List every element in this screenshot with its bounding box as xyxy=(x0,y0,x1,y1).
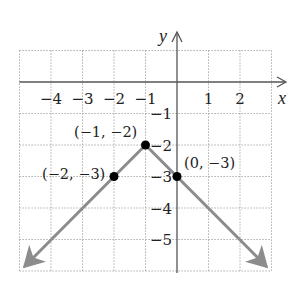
point-label-0-neg3: (0, −3) xyxy=(184,155,235,171)
x-tick-label: 2 xyxy=(235,90,245,108)
x-tick-label: −3 xyxy=(71,90,93,108)
point-label-vertex: (−1, −2) xyxy=(74,124,137,140)
x-tick-labels: −4 −3 −2 −1 1 2 xyxy=(40,90,245,108)
y-tick-labels: −1 −2 −3 −4 −5 xyxy=(150,105,172,249)
x-tick-label: −2 xyxy=(103,90,125,108)
x-tick-label: −4 xyxy=(40,90,62,108)
y-tick-label: −4 xyxy=(150,200,172,218)
x-tick-label: 1 xyxy=(204,90,214,108)
graph-left-ray xyxy=(25,145,146,266)
point-vertex xyxy=(141,141,150,150)
y-tick-label: −5 xyxy=(150,231,172,249)
x-axis-label: x xyxy=(277,88,286,108)
point-0-neg3 xyxy=(173,172,182,181)
point-neg2-neg3 xyxy=(110,172,119,181)
y-axis-label: y xyxy=(157,26,167,46)
point-label-neg2-neg3: (−2, −3) xyxy=(42,166,105,182)
y-tick-label: −1 xyxy=(150,105,172,123)
coordinate-plane: y x −4 −3 −2 −1 1 2 −1 −2 −3 −4 −5 (−1, … xyxy=(0,0,292,295)
y-tick-label: −3 xyxy=(150,168,172,186)
